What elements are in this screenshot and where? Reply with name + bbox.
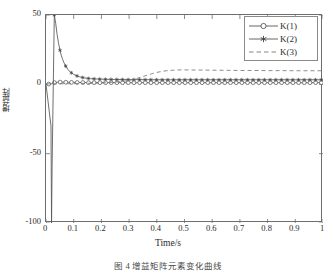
legend: K(1) K(2) K(3) <box>244 16 318 61</box>
x-axis-tick-label: 0.1 <box>61 224 85 233</box>
figure-container: 50 0 -50 -100 00.10.20.30.40.50.60.70.80… <box>0 0 336 271</box>
legend-sample-asterisk-line <box>248 33 279 45</box>
y-axis-tick-label: 0 <box>0 78 41 87</box>
x-axis-label: Time/s <box>0 238 336 248</box>
legend-label-k3: K(3) <box>279 46 297 58</box>
legend-sample-circle-line <box>248 20 279 32</box>
x-axis-tick-label: 0.7 <box>227 224 251 233</box>
x-axis-tick-label: 0.9 <box>282 224 306 233</box>
x-axis-tick-label: 0.4 <box>144 224 168 233</box>
y-axis-tick-label: -50 <box>0 148 41 157</box>
legend-label-k2: K(2) <box>279 33 297 45</box>
y-axis-label: 增益阵 <box>2 88 14 112</box>
x-axis-tick-label: 0.5 <box>172 224 196 233</box>
legend-item-k2: K(2) <box>245 32 317 45</box>
figure-caption: 图 4 增益矩阵元素变化曲线 <box>0 261 336 271</box>
legend-item-k3: K(3) <box>245 45 317 58</box>
x-axis-tick-label: 0.3 <box>116 224 140 233</box>
x-axis-tick-label: 0.8 <box>255 224 279 233</box>
legend-sample-dashed-line <box>248 46 279 58</box>
x-axis-tick-label: 0.2 <box>88 224 112 233</box>
x-axis-tick-label: 1 <box>310 224 334 233</box>
x-axis-tick-label: 0 <box>33 224 57 233</box>
y-axis-tick-label: 50 <box>0 9 41 18</box>
legend-item-k1: K(1) <box>245 19 317 32</box>
x-axis-tick-label: 0.6 <box>199 224 223 233</box>
legend-label-k1: K(1) <box>279 20 297 32</box>
